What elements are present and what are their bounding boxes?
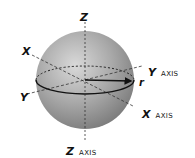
sphere-graphic xyxy=(0,0,195,158)
label-y-axis-letter: Y xyxy=(148,66,156,79)
label-y-axis-word: AXIS xyxy=(161,70,178,78)
label-z-axis-word: AXIS xyxy=(79,149,96,157)
sphere-axes-diagram: Z X Y Y AXIS r X AXIS Z AXIS xyxy=(0,0,195,158)
label-x-axis-word: AXIS xyxy=(156,112,173,120)
label-x-axis-letter: X xyxy=(142,108,150,121)
label-z-top: Z xyxy=(80,12,88,23)
label-x-axis: X AXIS xyxy=(142,105,173,121)
label-z-axis: Z AXIS xyxy=(66,142,96,158)
label-y-left: Y xyxy=(20,92,28,103)
label-z-axis-letter: Z xyxy=(66,145,74,158)
label-y-axis: Y AXIS xyxy=(148,63,178,79)
label-radius: r xyxy=(139,78,144,88)
label-x-left: X xyxy=(22,46,30,57)
